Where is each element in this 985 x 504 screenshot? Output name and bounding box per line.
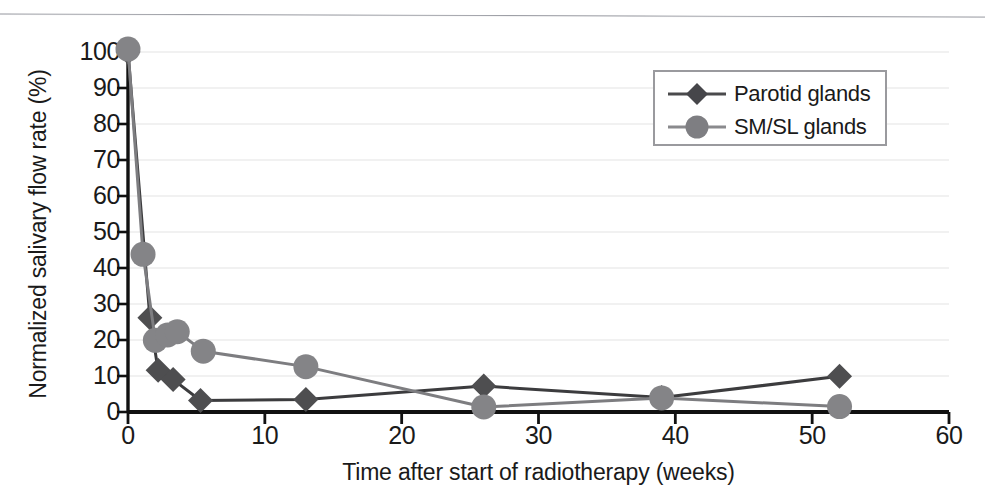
legend-label-smsl-glands: SM/SL glands <box>728 116 867 138</box>
legend-circle-marker-icon <box>666 113 728 141</box>
x-tick-label: 60 <box>914 422 984 448</box>
data-point-circle <box>827 394 852 419</box>
data-point-circle <box>165 319 190 344</box>
figure-chart: 0102030405060708090100 Normalized saliva… <box>0 0 985 504</box>
data-point-circle <box>471 394 496 419</box>
y-tick-label: 40 <box>60 255 120 280</box>
x-tick-label: 10 <box>230 422 300 448</box>
data-point-diamond <box>293 387 318 412</box>
legend-label-parotid-glands: Parotid glands <box>728 83 870 105</box>
data-point-circle <box>293 354 318 379</box>
data-point-circle <box>131 242 156 267</box>
x-tick-label: 30 <box>504 422 574 448</box>
data-point-diamond <box>188 388 213 413</box>
data-point-circle <box>649 385 674 410</box>
x-tick-label: 50 <box>777 422 847 448</box>
y-tick-label: 70 <box>60 147 120 172</box>
y-tick-label: 90 <box>60 75 120 100</box>
legend-item-smsl-glands: SM/SL glands <box>655 110 885 143</box>
x-axis-title: Time after start of radiotherapy (weeks) <box>128 460 949 484</box>
legend-item-parotid-glands: Parotid glands <box>655 77 885 110</box>
y-tick-label: 20 <box>60 327 120 352</box>
y-tick-label: 80 <box>60 111 120 136</box>
y-tick-label: 60 <box>60 183 120 208</box>
y-tick-label: 50 <box>60 219 120 244</box>
y-tick-label: 10 <box>60 363 120 388</box>
caption-fragment <box>0 492 330 504</box>
data-point-diamond <box>827 364 852 389</box>
x-tick-label: 20 <box>367 422 437 448</box>
y-tick-label: 30 <box>60 291 120 316</box>
legend-diamond-marker-icon <box>666 80 728 108</box>
top-horizontal-rule <box>0 13 985 18</box>
y-tick-label: 100 <box>60 39 120 64</box>
chart-legend: Parotid glands SM/SL glands <box>653 70 887 146</box>
x-tick-label: 40 <box>640 422 710 448</box>
x-tick-label: 0 <box>93 422 163 448</box>
data-point-circle <box>191 339 216 364</box>
y-tick-label: 0 <box>60 399 120 424</box>
y-axis-title: Normalized salivary flow rate (%) <box>26 24 50 444</box>
data-point-circle <box>116 37 141 62</box>
